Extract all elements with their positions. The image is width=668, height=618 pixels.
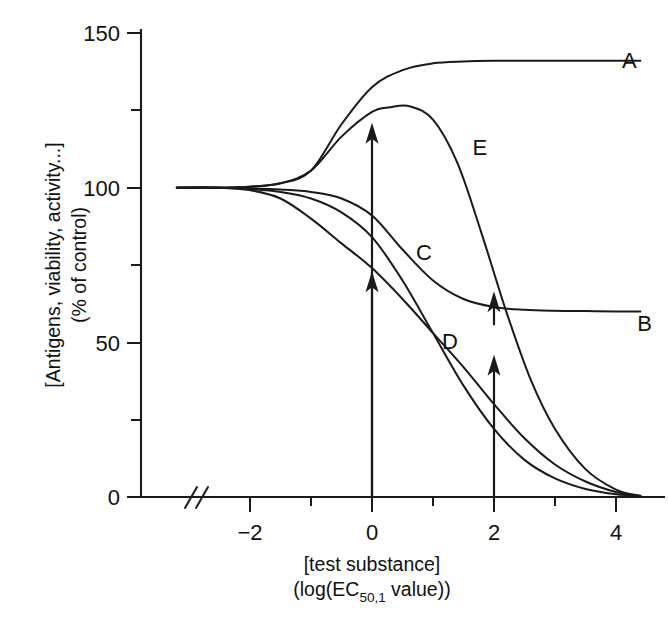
arrow-x0-lower-icon — [366, 271, 379, 497]
curve-A — [177, 61, 641, 188]
dose-response-chart: 150 100 50 0 −2 0 2 4 — [0, 0, 668, 618]
annotation-arrows — [366, 123, 501, 497]
x-axis-title-line2: (log(EC50,1 value)) — [293, 578, 450, 605]
y-tick-label-100: 100 — [83, 176, 120, 201]
x-tick-label-4: 4 — [610, 520, 622, 545]
curve-label-A: A — [622, 48, 637, 73]
y-tick-label-50: 50 — [96, 331, 120, 356]
axes — [131, 30, 664, 497]
y-axis-title-line2: (% of control) — [68, 207, 90, 323]
arrow-x2-lower-icon — [488, 355, 501, 497]
curve-label-C: C — [416, 240, 432, 265]
x-axis-title: [test substance] (log(EC50,1 value)) — [293, 553, 450, 605]
x-axis-title-line2-post: value)) — [386, 578, 451, 600]
x-axis-title-line2-pre: (log(EC — [293, 578, 359, 600]
curve-E — [177, 105, 641, 495]
arrow-x2-upper-icon — [488, 291, 501, 325]
curve-D — [177, 187, 641, 496]
curve-label-E: E — [473, 135, 488, 160]
curve-B — [177, 188, 641, 312]
y-tick-label-150: 150 — [83, 21, 120, 46]
curve-label-B: B — [637, 311, 652, 336]
y-axis-ticks — [127, 33, 141, 497]
y-axis-title-line1: [Antigens, viability, activity...] — [42, 142, 64, 387]
x-tick-label-0: 0 — [366, 520, 378, 545]
curve-labels: A B C D E — [416, 48, 652, 355]
x-tick-label--2: −2 — [237, 520, 262, 545]
curve-C — [177, 188, 641, 496]
x-tick-label-2: 2 — [488, 520, 500, 545]
x-axis-title-line2-subscript: 50,1 — [359, 590, 385, 605]
curve-label-D: D — [442, 329, 458, 354]
x-axis-tick-labels: −2 0 2 4 — [237, 520, 622, 545]
dose-response-figure: 150 100 50 0 −2 0 2 4 — [0, 0, 668, 618]
x-axis-title-line1: [test substance] — [304, 553, 441, 575]
y-tick-label-0: 0 — [108, 485, 120, 510]
curves — [177, 61, 641, 496]
x-axis-ticks — [250, 497, 616, 512]
